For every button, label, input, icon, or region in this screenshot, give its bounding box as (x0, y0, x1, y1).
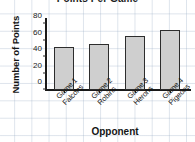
y-tick-mark (43, 39, 46, 40)
y-tick-label: 20 (22, 60, 42, 69)
y-tick-mark (43, 72, 46, 73)
y-axis-line (45, 18, 47, 90)
y-tick-label: 80 (22, 11, 42, 20)
y-tick-mark (43, 23, 46, 24)
y-tick-mark (43, 89, 46, 90)
chart-page: Points Per Game Number of Points 0204060… (0, 0, 195, 142)
y-tick-label: 0 (22, 77, 42, 86)
y-tick-label: 60 (22, 27, 42, 36)
y-tick-mark (43, 56, 46, 57)
y-tick-label: 40 (22, 44, 42, 53)
y-axis-title: Number of Points (10, 22, 21, 94)
chart-title: Points Per Game (0, 0, 195, 3)
x-axis-title: Opponent (40, 126, 190, 137)
